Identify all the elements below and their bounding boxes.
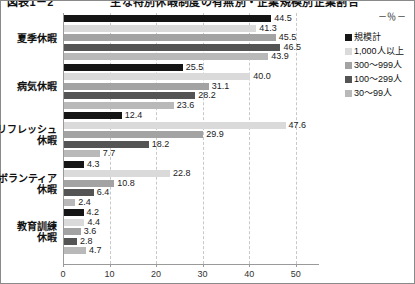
x-axis-tick-label: 40 [244, 269, 254, 279]
bar-value-label: 4.4 [87, 217, 100, 227]
bar-value-label: 29.9 [206, 129, 224, 139]
bar[interactable] [64, 25, 256, 32]
category-label: 教育訓練 休暇 [0, 221, 57, 243]
bar[interactable] [64, 73, 250, 80]
bar-value-label: 44.5 [274, 13, 292, 23]
legend-item-label: 100～299人 [354, 75, 402, 84]
bar[interactable] [64, 122, 286, 129]
bar-value-label: 7.7 [103, 148, 116, 158]
bar[interactable] [64, 228, 81, 235]
bar-value-label: 45.5 [279, 32, 297, 42]
bar-row: 2.8 [64, 238, 320, 245]
bar[interactable] [64, 141, 149, 148]
bar[interactable] [64, 209, 84, 216]
bar-row: 4.7 [64, 247, 320, 254]
bar[interactable] [64, 199, 75, 206]
x-axis-tick-label: 30 [198, 269, 208, 279]
x-axis-line [63, 264, 319, 265]
bar[interactable] [64, 15, 271, 22]
bar-row: 46.5 [64, 44, 320, 51]
x-axis-tick-label: 20 [151, 269, 161, 279]
bar[interactable] [64, 170, 170, 177]
legend-item[interactable]: 規模計 [345, 30, 415, 44]
legend-item[interactable]: 30～99人 [345, 86, 415, 100]
bar-value-label: 4.2 [87, 207, 100, 217]
legend-item[interactable]: 300～999人 [345, 58, 415, 72]
bar-row: 22.8 [64, 170, 320, 177]
x-axis-tick [203, 264, 204, 267]
bar[interactable] [64, 238, 77, 245]
bar-row: 12.4 [64, 112, 320, 119]
x-axis-tick [110, 264, 111, 267]
legend-item[interactable]: 1,000人以上 [345, 44, 415, 58]
bar-value-label: 46.5 [283, 42, 301, 52]
category-label: 病気休暇 [0, 81, 57, 92]
bar-value-label: 18.2 [152, 139, 170, 149]
legend-item-label: 1,000人以上 [354, 47, 404, 56]
legend-item[interactable]: 100～299人 [345, 72, 415, 86]
x-axis-tick [156, 264, 157, 267]
bar-value-label: 2.4 [78, 197, 91, 207]
bar[interactable] [64, 189, 94, 196]
bar[interactable] [64, 83, 209, 90]
bar-row: 4.2 [64, 209, 320, 216]
legend-swatch-icon [345, 90, 352, 97]
x-axis-tick [63, 264, 64, 267]
bar-value-label: 28.2 [198, 90, 216, 100]
bar-row: 4.3 [64, 161, 320, 168]
bar[interactable] [64, 44, 280, 51]
bar[interactable] [64, 247, 86, 254]
category-label: 夏季休暇 [0, 33, 57, 44]
bar-value-label: 25.5 [186, 62, 204, 72]
bar[interactable] [64, 102, 174, 109]
x-axis-tick-label: 0 [60, 269, 65, 279]
category-label: リフレッシュ 休暇 [0, 124, 57, 146]
legend-item-label: 規模計 [354, 33, 381, 42]
x-axis-tick [249, 264, 250, 267]
bar-value-label: 2.8 [80, 236, 93, 246]
x-axis-tick-label: 10 [105, 269, 115, 279]
bar[interactable] [64, 219, 84, 226]
bar[interactable] [64, 53, 268, 60]
chart-legend: 規模計1,000人以上300～999人100～299人30～99人 [345, 30, 415, 100]
bar-row: 6.4 [64, 189, 320, 196]
bar-value-label: 4.7 [89, 245, 102, 255]
bar-value-label: 4.3 [87, 159, 100, 169]
x-axis-tick-label: 50 [291, 269, 301, 279]
bar-value-label: 43.9 [271, 51, 289, 61]
bar-value-label: 23.6 [177, 100, 195, 110]
bar[interactable] [64, 131, 203, 138]
bar-row: 28.2 [64, 92, 320, 99]
bar[interactable] [64, 180, 114, 187]
bar-value-label: 47.6 [289, 120, 307, 130]
bar[interactable] [64, 112, 122, 119]
bar-row: 41.3 [64, 25, 320, 32]
bar-row: 45.5 [64, 34, 320, 41]
legend-item-label: 300～999人 [354, 61, 402, 70]
bar-row: 18.2 [64, 141, 320, 148]
chart-page: 図表1－2 主な特別休暇制度の有無別・企業規模別企業割合 －％－ 規模計1,00… [0, 0, 415, 284]
bar-row: 23.6 [64, 102, 320, 109]
bar[interactable] [64, 150, 100, 157]
bar-value-label: 40.0 [253, 71, 271, 81]
bar-row: 4.4 [64, 219, 320, 226]
legend-swatch-icon [345, 48, 352, 55]
page-title: 図表1－2 主な特別休暇制度の有無別・企業規模別企業割合 [7, 1, 359, 9]
chart-title-strip: 図表1－2 主な特別休暇制度の有無別・企業規模別企業割合 [1, 1, 415, 10]
bar-value-label: 6.4 [97, 187, 110, 197]
plot-area: 0102030405044.541.345.546.543.925.540.03… [63, 13, 319, 264]
bar[interactable] [64, 34, 276, 41]
bar-value-label: 31.1 [212, 81, 230, 91]
bar-row: 40.0 [64, 73, 320, 80]
bar[interactable] [64, 64, 183, 71]
legend-item-label: 30～99人 [354, 89, 392, 98]
unit-label: －％－ [378, 10, 407, 23]
bar-row: 44.5 [64, 15, 320, 22]
bar-row: 2.4 [64, 199, 320, 206]
bar-row: 25.5 [64, 64, 320, 71]
bar[interactable] [64, 92, 195, 99]
bar-row: 31.1 [64, 83, 320, 90]
bar-value-label: 12.4 [125, 110, 143, 120]
bar-row: 7.7 [64, 150, 320, 157]
bar[interactable] [64, 161, 84, 168]
